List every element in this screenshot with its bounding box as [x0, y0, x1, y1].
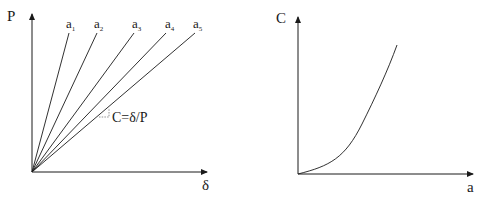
left-plot: P δ a1 a2 a3 a4 a5 C=δ/P — [7, 8, 209, 193]
line-a5 — [32, 33, 195, 172]
label-a4: a4 — [165, 16, 175, 33]
c-axis-label: C — [276, 10, 286, 26]
c-vs-a-curve — [298, 45, 397, 174]
right-plot: C a — [276, 10, 474, 195]
slope-triangle — [99, 108, 109, 117]
line-a4 — [32, 33, 166, 172]
label-a5: a5 — [193, 16, 203, 33]
label-a2: a2 — [94, 16, 104, 33]
line-a1 — [32, 33, 69, 172]
p-axis-label: P — [7, 8, 15, 24]
label-a3: a3 — [132, 16, 142, 33]
delta-axis-label: δ — [202, 177, 209, 193]
compliance-annotation: C=δ/P — [112, 110, 148, 125]
a-axis-label: a — [467, 179, 474, 195]
line-a2 — [32, 33, 97, 172]
diagram-canvas: P δ a1 a2 a3 a4 a5 C=δ/P C a — [0, 0, 483, 198]
label-a1: a1 — [66, 16, 76, 33]
line-a3 — [32, 33, 134, 172]
